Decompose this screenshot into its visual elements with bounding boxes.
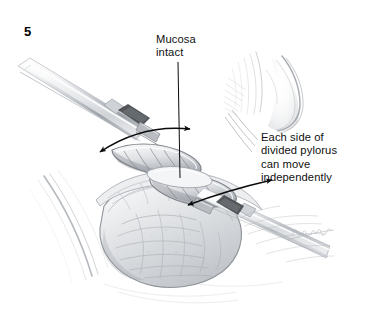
surgical-illustration-figure: 5 Mucosa intact Each side of divided pyl…: [0, 0, 365, 318]
figure-number: 5: [24, 24, 31, 39]
label-mucosa-intact: Mucosa intact: [156, 33, 196, 60]
label-each-side-moves-independently: Each side of divided pylorus can move in…: [261, 131, 337, 185]
